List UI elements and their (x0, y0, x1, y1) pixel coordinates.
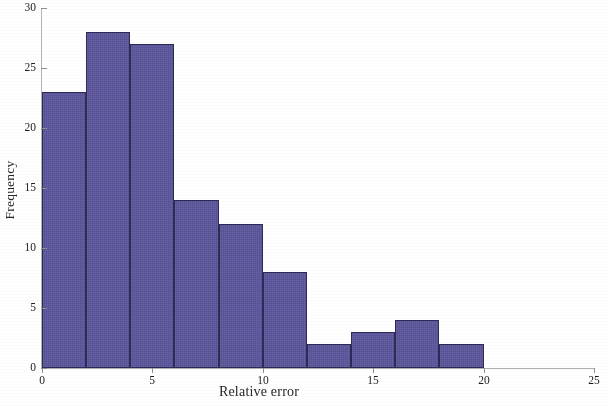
histogram-bar (42, 92, 86, 368)
y-tick-mark (41, 248, 47, 249)
histogram-bar (351, 332, 395, 368)
histogram-bar (219, 224, 263, 368)
y-tick-label: 20 (10, 121, 36, 133)
histogram-bar (130, 44, 174, 368)
y-tick-mark (41, 68, 47, 69)
y-tick-label: 30 (10, 1, 36, 13)
y-tick-label: 5 (10, 301, 36, 313)
histogram-bar (86, 32, 130, 368)
x-tick-mark (484, 368, 485, 373)
histogram-bar (174, 200, 218, 368)
histogram-figure: Frequency 051015202530 0510152025 Relati… (0, 0, 608, 406)
x-tick-mark (594, 368, 595, 373)
y-tick-label: 15 (10, 181, 36, 193)
plot-area: 051015202530 0510152025 (42, 8, 594, 368)
y-tick-label: 10 (10, 241, 36, 253)
y-tick-mark (41, 128, 47, 129)
y-tick-mark (41, 308, 47, 309)
x-axis-label: Relative error (0, 384, 608, 400)
y-tick-mark (41, 188, 47, 189)
histogram-bar (439, 344, 483, 368)
x-tick-mark (373, 368, 374, 373)
histogram-bar (395, 320, 439, 368)
x-tick-mark (42, 368, 43, 373)
histogram-bar (307, 344, 351, 368)
x-axis-line (41, 368, 594, 369)
y-tick-mark (41, 8, 47, 9)
x-tick-mark (152, 368, 153, 373)
y-tick-label: 25 (10, 61, 36, 73)
x-tick-mark (263, 368, 264, 373)
histogram-bar (263, 272, 307, 368)
y-tick-label: 0 (10, 361, 36, 373)
